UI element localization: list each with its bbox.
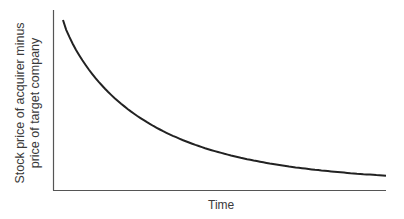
spread-curve xyxy=(63,20,386,176)
y-axis-label-line-1: Stock price of acquirer minus xyxy=(13,18,28,188)
y-axis-label-line-2: price of target company xyxy=(28,18,43,188)
x-axis-label: Time xyxy=(208,198,234,212)
chart-canvas xyxy=(0,0,404,219)
y-axis-label: Stock price of acquirer minus price of t… xyxy=(13,18,43,188)
